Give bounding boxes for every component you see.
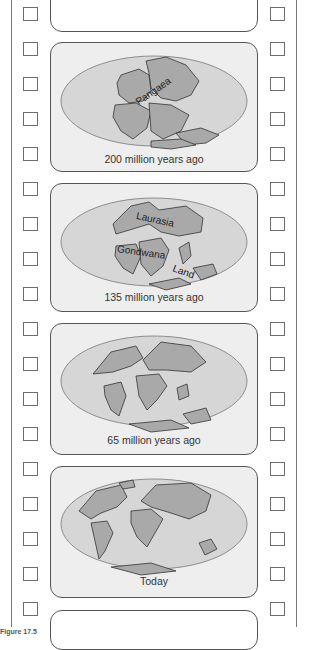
frame-partial-bottom — [50, 610, 258, 650]
sprocket-hole — [23, 322, 38, 336]
sprocket-hole — [270, 182, 285, 196]
sprocket-hole — [270, 217, 285, 231]
frame-200-mya: Pangaea 200 million years ago — [50, 42, 258, 172]
sprocket-hole — [270, 462, 285, 476]
frame-135-mya: Laurasia Gondwana Land 135 million years… — [50, 183, 258, 312]
sprocket-hole — [23, 357, 38, 371]
sprocket-hole — [23, 147, 38, 161]
sprocket-hole — [270, 392, 285, 406]
sprocket-hole — [23, 182, 38, 196]
sprocket-hole — [270, 112, 285, 126]
sprocket-hole — [23, 497, 38, 511]
sprocket-hole — [270, 567, 285, 581]
frame-today: Today — [50, 466, 258, 598]
sprocket-hole — [23, 427, 38, 441]
sprocket-hole — [270, 77, 285, 91]
sprocket-hole — [23, 252, 38, 266]
sprocket-hole — [270, 532, 285, 546]
frame-caption: 65 million years ago — [51, 434, 257, 446]
sprocket-hole — [23, 532, 38, 546]
sprocket-hole — [270, 42, 285, 56]
sprocket-hole — [23, 7, 38, 21]
frame-partial-top — [50, 0, 258, 32]
sprocket-hole — [23, 602, 38, 616]
sprocket-hole — [270, 497, 285, 511]
frame-caption: Today — [51, 575, 257, 587]
frame-65-mya: 65 million years ago — [50, 323, 258, 455]
sprocket-hole — [23, 77, 38, 91]
sprocket-hole — [270, 287, 285, 301]
sprocket-hole — [23, 462, 38, 476]
sprocket-hole — [23, 42, 38, 56]
sprocket-hole — [270, 602, 285, 616]
sprocket-hole — [270, 357, 285, 371]
sprocket-hole — [270, 147, 285, 161]
sprocket-hole — [270, 7, 285, 21]
figure-label: Figure 17.5 — [0, 628, 37, 635]
sprocket-hole — [23, 217, 38, 231]
sprocket-hole — [270, 322, 285, 336]
sprocket-hole — [23, 112, 38, 126]
sprocket-hole — [23, 392, 38, 406]
sprocket-hole — [270, 427, 285, 441]
frame-caption: 200 million years ago — [51, 153, 257, 165]
sprocket-hole — [23, 567, 38, 581]
sprocket-hole — [23, 287, 38, 301]
frame-caption: 135 million years ago — [51, 291, 257, 303]
sprocket-hole — [270, 252, 285, 266]
